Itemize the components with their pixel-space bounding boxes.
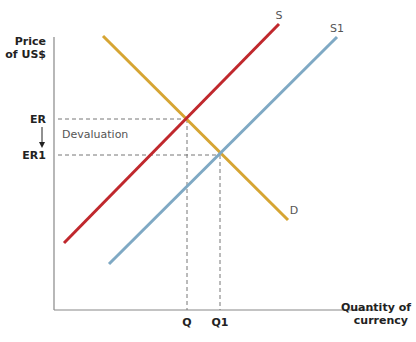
tick-q1: Q1 — [211, 316, 228, 329]
series-label-s: S — [276, 9, 283, 22]
xlabel-line2: currency — [354, 314, 408, 327]
tick-er: ER — [30, 113, 47, 126]
series-label-d: D — [290, 204, 298, 217]
ylabel-line1: Price — [15, 35, 46, 48]
ylabel-line2: of US$ — [5, 48, 46, 61]
series-label-s1: S1 — [330, 22, 344, 35]
xlabel-line1: Quantity of — [341, 301, 411, 314]
tick-er1: ER1 — [22, 149, 46, 162]
supply1-line — [109, 37, 337, 264]
demand-line — [103, 36, 288, 220]
exchange-rate-chart: Price of US$ ER ER1 Devaluation Q Q1 Qua… — [0, 0, 416, 342]
devaluation-annotation: Devaluation — [62, 128, 128, 141]
tick-q: Q — [182, 316, 191, 329]
arrow-down-icon — [39, 142, 45, 148]
